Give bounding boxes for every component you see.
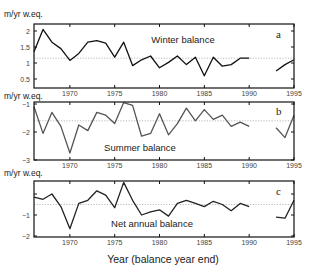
panel-b-title: Summer balance [104,142,176,153]
panel-c-title: Net annual balance [111,218,193,229]
x-tick-label: 1975 [107,90,123,97]
panel-b: m/yr w.eq. −3−2−1 1970197519801985199019… [4,91,302,169]
x-axis-label: Year (balance year end) [107,253,219,265]
x-tick-label: 1985 [197,90,213,97]
panel-c-y-axis: −2−1 [22,194,294,240]
y-tick-label: −3 [22,157,30,164]
x-tick-label: 1990 [241,162,257,169]
x-tick-label: 1975 [107,162,123,169]
x-tick-label: 1980 [152,90,168,97]
y-tick-label: 2 [26,28,30,35]
x-tick-label: 1985 [197,239,213,246]
x-tick-label: 1980 [152,162,168,169]
x-tick-label: 1995 [286,90,302,97]
y-tick-label: 1 [26,60,30,67]
glacier-balance-figure: m/yr w.eq. 0.511.52 19701975198019851990… [0,0,317,274]
x-tick-label: 1975 [107,239,123,246]
x-tick-label: 1970 [62,90,78,97]
y-tick-label: −2 [22,129,30,136]
x-tick-label: 1970 [62,239,78,246]
x-tick-label: 1990 [241,239,257,246]
y-tick-label: −1 [22,212,30,219]
panel-b-unit-label: m/yr w.eq. [4,91,43,101]
x-tick-label: 1995 [286,239,302,246]
y-tick-label: 1.5 [20,44,30,51]
panel-c-unit-label: m/yr w.eq. [4,168,43,178]
panel-a-title: Winter balance [151,34,214,45]
panel-a: m/yr w.eq. 0.511.52 19701975198019851990… [4,9,302,97]
panel-a-unit-label: m/yr w.eq. [4,9,43,19]
x-tick-label: 1970 [62,162,78,169]
y-tick-label: −1 [22,101,30,108]
x-tick-label: 1980 [152,239,168,246]
x-tick-label: 1995 [286,162,302,169]
y-tick-label: −2 [22,233,30,240]
panel-a-letter: a [276,28,281,40]
x-tick-label: 1990 [241,90,257,97]
y-tick-label: 0.5 [20,76,30,83]
panel-c-letter: c [276,185,281,197]
panel-c: m/yr w.eq. −2−1 197019751980198519901995… [4,168,302,246]
panel-b-x-axis: 197019751980198519901995 [62,102,302,169]
panel-b-letter: b [276,105,282,117]
x-tick-label: 1985 [197,162,213,169]
